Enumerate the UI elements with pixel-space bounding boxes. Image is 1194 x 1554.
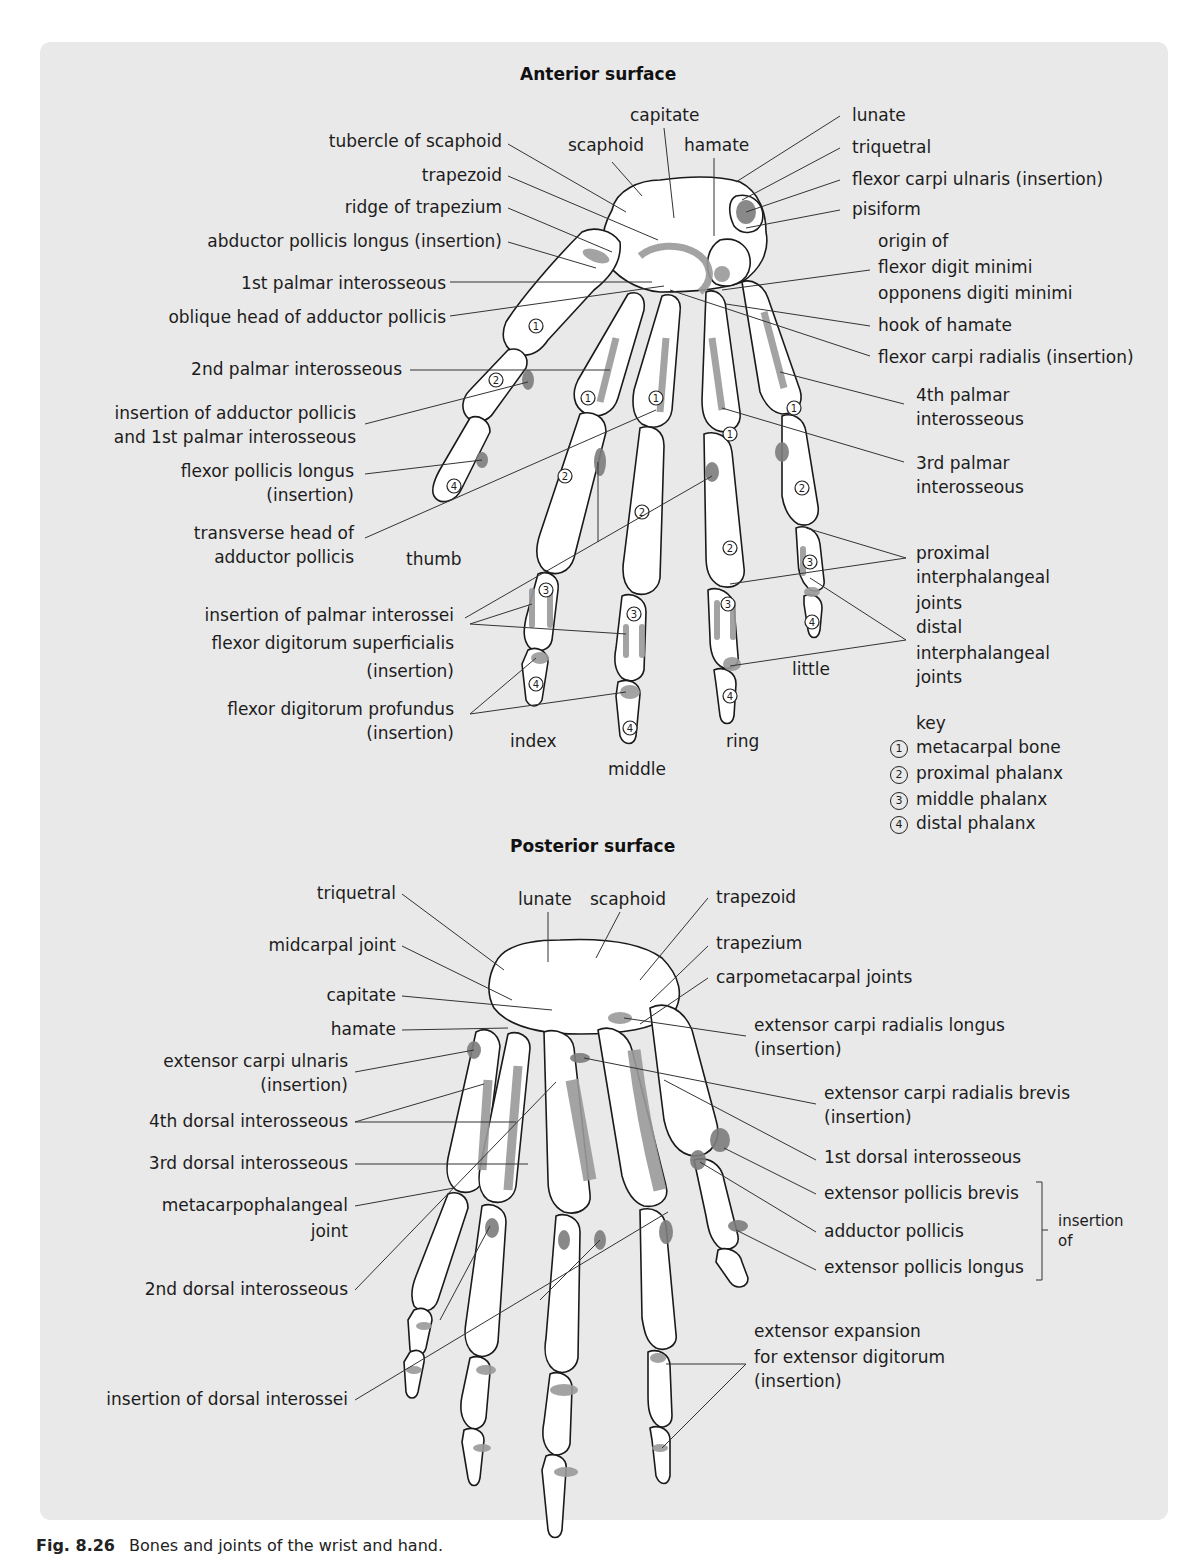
label-extensor-pollicis-brevis: extensor pollicis brevis: [824, 1182, 1019, 1204]
svg-text:1: 1: [533, 321, 539, 332]
key-item-distal-phalanx: 4distal phalanx: [890, 812, 1036, 834]
label-ecrb-insertion: (insertion): [824, 1106, 912, 1128]
label-adductor-pollicis: adductor pollicis: [824, 1220, 964, 1242]
label-hamate: hamate: [684, 134, 749, 156]
svg-text:4: 4: [451, 481, 457, 492]
label-of-bracket: of: [1058, 1230, 1072, 1252]
circled-number-icon: 4: [890, 816, 908, 834]
svg-text:1: 1: [585, 393, 591, 404]
svg-text:2: 2: [799, 483, 805, 494]
label-triquetral: triquetral: [852, 136, 931, 158]
label-4th-dorsal-interosseous: 4th dorsal interosseous: [149, 1110, 348, 1132]
svg-text:3: 3: [631, 609, 637, 620]
label-carpometacarpal-joints: carpometacarpal joints: [716, 966, 912, 988]
label-flexor-pollicis-longus-insertion: (insertion): [266, 484, 354, 506]
label-flexor-pollicis-longus: flexor pollicis longus: [181, 460, 354, 482]
label-insertion-bracket: insertion: [1058, 1210, 1124, 1232]
label-finger-ring: ring: [726, 730, 759, 752]
label-capitate: capitate: [630, 104, 700, 126]
label-4th-palmar: 4th palmar: [916, 384, 1010, 406]
circled-number-icon: 3: [890, 792, 908, 810]
label-post-trapezoid: trapezoid: [716, 886, 796, 908]
label-proximal-joints: joints: [916, 592, 962, 614]
svg-text:4: 4: [627, 723, 633, 734]
label-hook-of-hamate: hook of hamate: [878, 314, 1012, 336]
figure-caption-text: Bones and joints of the wrist and hand.: [129, 1536, 443, 1554]
label-oblique-head-adductor-pollicis: oblique head of adductor pollicis: [168, 306, 446, 328]
label-ridge-of-trapezium: ridge of trapezium: [345, 196, 502, 218]
svg-text:2: 2: [493, 375, 499, 386]
label-metacarpophalangeal: metacarpophalangeal: [162, 1194, 348, 1216]
label-finger-middle: middle: [608, 758, 666, 780]
label-3rd-palmar-interosseous: interosseous: [916, 476, 1024, 498]
label-distal-interphalangeal: interphalangeal: [916, 642, 1050, 664]
label-fds-insertion: (insertion): [366, 660, 454, 682]
label-finger-thumb: thumb: [406, 548, 462, 570]
label-proximal-interphalangeal: interphalangeal: [916, 566, 1050, 588]
label-extensor-digitorum-insertion: (insertion): [754, 1370, 842, 1392]
label-fdp-insertion: (insertion): [366, 722, 454, 744]
key-item-metacarpal: 1metacarpal bone: [890, 736, 1061, 758]
posterior-surface-title: Posterior surface: [510, 836, 675, 856]
label-abductor-pollicis-longus: abductor pollicis longus (insertion): [207, 230, 502, 252]
label-transverse-head-1: transverse head of: [194, 522, 354, 544]
label-post-capitate: capitate: [327, 984, 397, 1006]
label-insertion-adductor-pollicis-2: and 1st palmar interosseous: [114, 426, 356, 448]
label-trapezium: trapezium: [716, 932, 802, 954]
label-insertion-dorsal-interossei: insertion of dorsal interossei: [106, 1388, 348, 1410]
label-extensor-carpi-ulnaris: extensor carpi ulnaris: [163, 1050, 348, 1072]
label-flexor-carpi-ulnaris: flexor carpi ulnaris (insertion): [852, 168, 1103, 190]
label-distal: distal: [916, 616, 962, 638]
label-post-hamate: hamate: [331, 1018, 396, 1040]
label-opponens-digiti-minimi: opponens digiti minimi: [878, 282, 1073, 304]
label-extensor-expansion: extensor expansion: [754, 1320, 921, 1342]
label-trapezoid: trapezoid: [422, 164, 502, 186]
key-item-proximal-phalanx: 2proximal phalanx: [890, 762, 1063, 784]
label-midcarpal-joint: midcarpal joint: [269, 934, 396, 956]
label-distal-joints: joints: [916, 666, 962, 688]
svg-text:3: 3: [725, 599, 731, 610]
label-ecu-insertion: (insertion): [260, 1074, 348, 1096]
label-3rd-dorsal-interosseous: 3rd dorsal interosseous: [149, 1152, 348, 1174]
figure-caption: Fig. 8.26Bones and joints of the wrist a…: [36, 1536, 443, 1554]
label-transverse-head-2: adductor pollicis: [214, 546, 354, 568]
svg-text:4: 4: [809, 617, 815, 628]
svg-text:1: 1: [653, 393, 659, 404]
key-item-middle-phalanx: 3middle phalanx: [890, 788, 1047, 810]
anterior-surface-title: Anterior surface: [520, 64, 676, 84]
label-tubercle-of-scaphoid: tubercle of scaphoid: [329, 130, 502, 152]
label-pisiform: pisiform: [852, 198, 921, 220]
svg-text:2: 2: [727, 543, 733, 554]
label-extensor-pollicis-longus: extensor pollicis longus: [824, 1256, 1024, 1278]
label-mcp-joint: joint: [311, 1220, 348, 1242]
key-title: key: [916, 712, 946, 734]
svg-text:4: 4: [533, 679, 539, 690]
label-finger-little: little: [792, 658, 830, 680]
circled-number-icon: 1: [890, 740, 908, 758]
svg-text:1: 1: [727, 429, 733, 440]
label-2nd-palmar-interosseous: 2nd palmar interosseous: [191, 358, 402, 380]
label-lunate: lunate: [852, 104, 906, 126]
label-1st-palmar-interosseous: 1st palmar interosseous: [241, 272, 446, 294]
label-origin-of: origin of: [878, 230, 948, 252]
label-flexor-carpi-radialis: flexor carpi radialis (insertion): [878, 346, 1134, 368]
label-post-lunate: lunate: [518, 888, 572, 910]
svg-text:4: 4: [727, 691, 733, 702]
label-for-extensor-digitorum: for extensor digitorum: [754, 1346, 945, 1368]
label-insertion-palmar-interossei: insertion of palmar interossei: [205, 604, 454, 626]
label-3rd-palmar: 3rd palmar: [916, 452, 1010, 474]
label-flexor-digitorum-profundus: flexor digitorum profundus: [227, 698, 454, 720]
label-finger-index: index: [510, 730, 557, 752]
svg-text:3: 3: [543, 585, 549, 596]
label-2nd-dorsal-interosseous: 2nd dorsal interosseous: [145, 1278, 348, 1300]
label-flexor-digitorum-superficialis: flexor digitorum superficialis: [212, 632, 454, 654]
label-ecrl-insertion: (insertion): [754, 1038, 842, 1060]
label-flexor-digit-minimi: flexor digit minimi: [878, 256, 1032, 278]
svg-text:2: 2: [562, 471, 568, 482]
label-scaphoid: scaphoid: [568, 134, 644, 156]
label-proximal: proximal: [916, 542, 990, 564]
label-ecrl: extensor carpi radialis longus: [754, 1014, 1005, 1036]
label-post-scaphoid: scaphoid: [590, 888, 666, 910]
label-1st-dorsal-interosseous: 1st dorsal interosseous: [824, 1146, 1021, 1168]
svg-text:3: 3: [807, 557, 813, 568]
